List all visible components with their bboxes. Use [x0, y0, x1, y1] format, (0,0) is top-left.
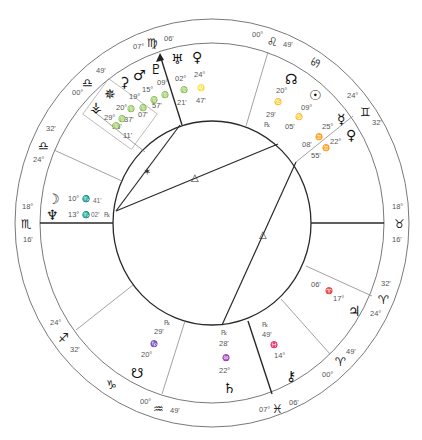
planet-neptune[interactable]: ♆ 13° ♏ 02' ℞: [46, 207, 110, 223]
svg-text:℞: ℞: [164, 319, 170, 326]
cusp-line-9: [246, 52, 268, 126]
aquarius-icon: ♒: [153, 402, 164, 416]
svg-text:15°: 15°: [142, 85, 153, 94]
svg-text:♏: ♏: [82, 211, 90, 219]
cusp-line-2: [76, 285, 133, 330]
cusp-label-2: 24° ♐ 32': [50, 318, 80, 354]
svg-text:22°: 22°: [219, 366, 230, 375]
planet-saturn[interactable]: ♄ ℞ 28' ♒ 22°: [219, 329, 236, 396]
venus-icon: ♀: [192, 49, 202, 65]
svg-text:49': 49': [96, 66, 106, 75]
aspect-circle: [113, 121, 311, 325]
venus-icon: ♀: [346, 127, 356, 143]
svg-text:24°: 24°: [50, 318, 61, 327]
neptune-icon: ♆: [46, 207, 59, 223]
svg-text:32': 32': [46, 124, 56, 133]
cusp-label-8: 24° ♊ 32': [347, 91, 382, 127]
svg-text:16': 16': [23, 235, 33, 244]
svg-text:02': 02': [91, 211, 99, 218]
planet-venus-leo[interactable]: ♀ 24° ♌ 47': [192, 49, 206, 105]
cusp-label-dsc: 18° ♉ 16': [392, 202, 405, 244]
moon-icon: ☽: [47, 191, 60, 207]
svg-text:07°: 07°: [133, 42, 144, 51]
pisces-icon: ♓: [272, 402, 283, 416]
north-node-icon: ☊: [285, 71, 297, 87]
planet-chiron[interactable]: ⚷ ℞ 49' ♓ 14°: [262, 321, 296, 384]
svg-text:32': 32': [372, 118, 382, 127]
svg-text:20°: 20°: [141, 350, 152, 359]
ceres-icon: ⚳: [119, 74, 129, 90]
sagittarius-icon: ♐: [58, 331, 69, 345]
svg-text:♌: ♌: [197, 84, 205, 92]
svg-text:24°: 24°: [194, 70, 205, 79]
svg-text:24°: 24°: [370, 309, 381, 318]
cusp-line-3: [162, 321, 185, 394]
svg-text:49': 49': [346, 347, 356, 356]
cancer-icon: ♋: [307, 54, 325, 70]
svg-text:♍: ♍: [150, 96, 158, 104]
libra-icon: ♎: [82, 76, 93, 90]
svg-text:♊: ♊: [322, 144, 330, 152]
svg-text:32': 32': [381, 279, 391, 288]
aspect-line-trine-2: [222, 162, 296, 325]
svg-text:29': 29': [266, 110, 276, 119]
planet-south-node[interactable]: ☋ ℞ 29' ♑ 20°: [131, 319, 170, 381]
svg-text:10°: 10°: [68, 194, 79, 203]
chiron-icon: ⚷: [286, 368, 296, 384]
taurus-icon: ♉: [394, 217, 405, 231]
svg-text:06': 06': [311, 280, 321, 289]
svg-text:09°: 09°: [157, 78, 168, 87]
svg-text:24°: 24°: [33, 155, 44, 164]
svg-text:♋: ♋: [274, 98, 282, 106]
svg-text:♍: ♍: [112, 122, 120, 130]
mars-icon: ♂: [133, 67, 146, 83]
svg-text:20°: 20°: [276, 86, 287, 95]
south-node-icon: ☋: [131, 365, 143, 381]
svg-text:14°: 14°: [274, 351, 285, 360]
capricorn-icon: ♑: [106, 378, 117, 392]
cusp-label-asc: 18° ♏ 16': [21, 202, 33, 244]
svg-text:℞: ℞: [262, 321, 268, 328]
planet-sun[interactable]: ☉ 09° ♋ 05': [285, 87, 322, 131]
trine-aspect-icon: △: [259, 229, 267, 240]
svg-text:13°: 13°: [68, 210, 79, 219]
svg-text:♍: ♍: [139, 104, 147, 112]
svg-text:41': 41': [93, 197, 101, 204]
planet-jupiter[interactable]: ♃ 06' ♈ 17°: [311, 280, 361, 319]
svg-text:♈: ♈: [325, 287, 333, 295]
svg-text:16': 16': [392, 235, 402, 244]
leo-icon: ♌: [267, 35, 278, 49]
svg-text:18°: 18°: [392, 202, 403, 211]
cusp-label-ic: 07° ♓ 06': [259, 398, 299, 416]
svg-text:06': 06': [164, 34, 174, 43]
scorpio-icon: ♏: [21, 217, 32, 231]
svg-text:℞: ℞: [221, 329, 227, 336]
mc-arrow-icon: [156, 53, 164, 62]
svg-text:00°: 00°: [252, 30, 263, 39]
cusp-line-5: [281, 299, 330, 354]
svg-text:00°: 00°: [140, 397, 151, 406]
cusp-label-11: 49' ♎ 00°: [72, 66, 106, 97]
planet-north-node[interactable]: ☊ 20° ♋ 29' ℞: [264, 71, 297, 128]
cusp-label-mc: 07° ♍ 06': [133, 34, 174, 51]
svg-text:05': 05': [285, 122, 295, 131]
sextile-aspect-icon: ✶: [143, 166, 151, 177]
sun-icon: ☉: [309, 87, 322, 103]
svg-text:♏: ♏: [82, 195, 90, 203]
svg-text:49': 49': [170, 406, 180, 415]
planet-moon[interactable]: ☽ 10° ♏ 41': [47, 191, 101, 207]
cusp-label-4: 00° ♒ 49': [140, 397, 180, 416]
cusp-label-9: ♋: [307, 54, 325, 70]
svg-text:17°: 17°: [333, 294, 344, 303]
aries-icon: ♈: [335, 355, 346, 369]
vesta-icon: ⚶: [90, 99, 102, 115]
svg-text:℞: ℞: [264, 121, 270, 128]
svg-text:♑: ♑: [150, 340, 158, 348]
svg-text:♍: ♍: [127, 105, 135, 113]
svg-text:♋: ♋: [295, 113, 303, 121]
svg-text:29°: 29°: [104, 113, 115, 122]
svg-text:00°: 00°: [72, 88, 83, 97]
svg-text:21': 21': [177, 98, 187, 107]
svg-text:♓: ♓: [270, 341, 278, 349]
cusp-label-6: 49' ♈ 00°: [322, 347, 356, 379]
